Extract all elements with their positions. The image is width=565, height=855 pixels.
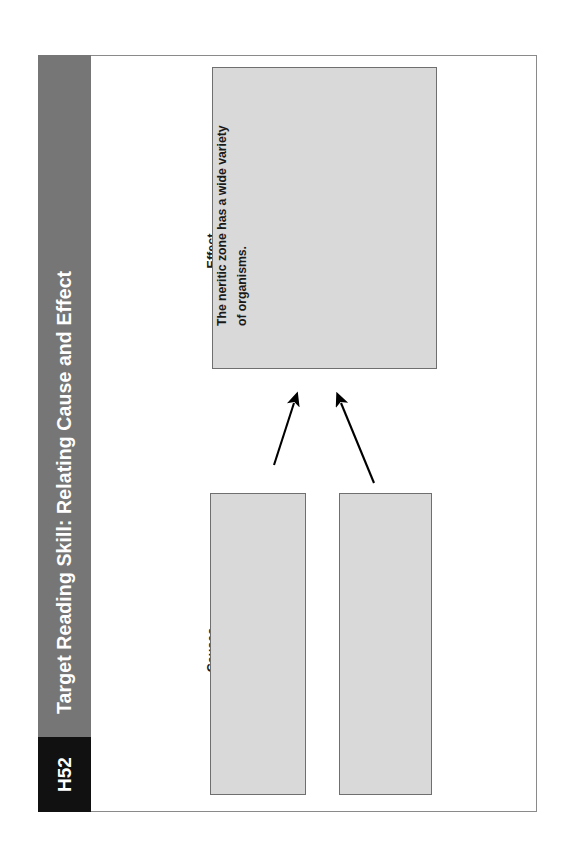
graphic-organizer: Effect The neritic zone has a wide varie… (91, 55, 537, 812)
header-band: Target Reading Skill: Relating Cause and… (38, 55, 91, 812)
cause-box-1[interactable] (210, 493, 306, 795)
page-title: Target Reading Skill: Relating Cause and… (38, 55, 91, 812)
effect-box-text-line-2: of organisms. (233, 125, 253, 326)
arrow-cause-1-to-effect (274, 403, 294, 465)
cause-box-2[interactable] (339, 493, 432, 795)
effect-box[interactable]: The neritic zone has a wide variety of o… (212, 67, 437, 369)
page-code-badge: H52 (38, 737, 91, 812)
page-code-label: H52 (38, 737, 91, 812)
arrow-cause-2-to-effect (341, 403, 374, 483)
effect-box-text-line-1: The neritic zone has a wide variety (213, 125, 233, 326)
effect-box-text: The neritic zone has a wide variety of o… (213, 68, 315, 342)
worksheet-page-canvas: Target Reading Skill: Relating Cause and… (0, 0, 565, 855)
